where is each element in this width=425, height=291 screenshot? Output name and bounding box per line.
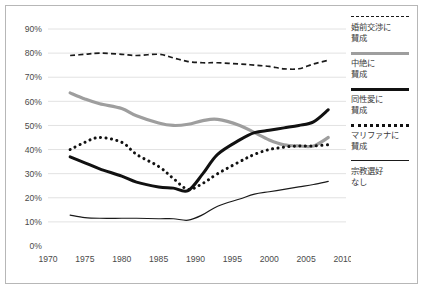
chart-legend: 婚前交渉に 賛成 中絶に 賛成 同性愛に 賛成 マリファナに 賛成 宗教選好 な…	[351, 12, 417, 262]
x-axis-tick-label: 1995	[223, 254, 242, 264]
thin-line-swatch	[351, 156, 409, 165]
x-axis-tick-label: 1980	[112, 254, 131, 264]
legend-item-label: 宗教選好 なし	[351, 166, 417, 190]
black-thick-line-swatch	[351, 84, 409, 93]
y-axis-tick-label: 20%	[25, 193, 43, 203]
x-axis-tick-label: 1990	[186, 254, 205, 264]
x-axis-tick-label: 1975	[75, 254, 94, 264]
y-axis-tick-label: 80%	[25, 48, 43, 58]
dotted-line-swatch	[351, 120, 409, 129]
legend-item-label: マリファナに 賛成	[351, 130, 417, 154]
data-series-line	[70, 181, 328, 220]
chart-page: 0%10%20%30%40%50%60%70%80%90%19701975198…	[0, 0, 425, 291]
legend-item-no-religion: 宗教選好 なし	[351, 156, 417, 190]
legend-item-marijuana: マリファナに 賛成	[351, 120, 417, 154]
legend-item-label: 中絶に 賛成	[351, 58, 417, 82]
y-axis-tick-label: 70%	[25, 72, 43, 82]
legend-item-label: 婚前交渉に 賛成	[351, 22, 417, 46]
data-series-line	[70, 53, 328, 69]
y-axis-tick-label: 10%	[25, 217, 43, 227]
y-axis-tick-label: 40%	[25, 145, 43, 155]
legend-item-premarital-sex: 婚前交渉に 賛成	[351, 12, 417, 46]
legend-item-label: 同性愛に 賛成	[351, 94, 417, 118]
y-axis-tick-label: 60%	[25, 97, 43, 107]
plot-area: 0%10%20%30%40%50%60%70%80%90%19701975198…	[6, 6, 351, 283]
dashed-line-swatch	[351, 12, 409, 21]
chart-frame: 0%10%20%30%40%50%60%70%80%90%19701975198…	[5, 5, 418, 284]
y-axis-tick-label: 0%	[30, 241, 43, 251]
y-axis-tick-label: 50%	[25, 121, 43, 131]
y-axis-tick-label: 30%	[25, 169, 43, 179]
x-axis-tick-label: 1985	[149, 254, 168, 264]
legend-item-abortion: 中絶に 賛成	[351, 48, 417, 82]
x-axis-tick-label: 1970	[38, 254, 57, 264]
gray-line-swatch	[351, 48, 409, 57]
data-series-line	[70, 138, 328, 190]
x-axis-tick-label: 2010	[333, 254, 351, 264]
line-chart-svg: 0%10%20%30%40%50%60%70%80%90%19701975198…	[6, 6, 351, 283]
x-axis-tick-label: 2005	[297, 254, 316, 264]
legend-item-homosexuality: 同性愛に 賛成	[351, 84, 417, 118]
x-axis-tick-label: 2000	[260, 254, 279, 264]
y-axis-tick-label: 90%	[25, 24, 43, 34]
